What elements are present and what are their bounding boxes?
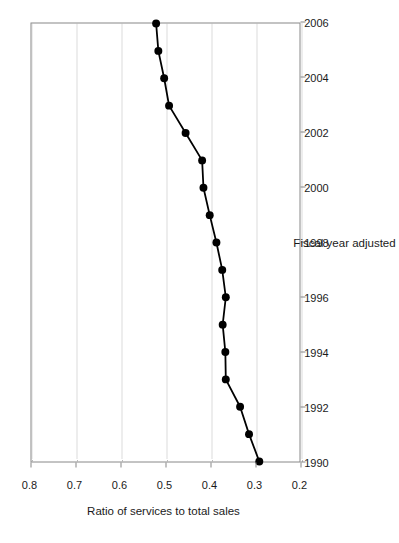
x-tick-label-2006: 2006	[300, 16, 332, 28]
data-point	[218, 265, 226, 273]
data-point	[199, 183, 207, 191]
y-tick-0.7	[75, 462, 76, 467]
y-tick-label-0.5: 0.5	[152, 478, 176, 490]
x-tick-label-1992: 1992	[300, 401, 332, 413]
data-point	[221, 293, 229, 301]
y-tick-0.5	[165, 462, 166, 467]
y-tick-label-0.4: 0.4	[197, 478, 221, 490]
data-point	[152, 19, 160, 27]
y-tick-label-0.2: 0.2	[287, 478, 311, 490]
y-tick-label-0.7: 0.7	[62, 478, 86, 490]
data-point	[154, 46, 162, 54]
series-markers	[152, 19, 263, 465]
x-tick-label-2000: 2000	[300, 181, 332, 193]
x-axis-title: Fiscal year adjusted	[289, 236, 399, 248]
data-point	[245, 430, 253, 438]
data-point	[218, 320, 226, 328]
data-point	[212, 238, 220, 246]
data-point	[198, 156, 206, 164]
x-tick-label-1990: 1990	[300, 456, 332, 468]
x-tick-label-2004: 2004	[300, 71, 332, 83]
data-series-line	[31, 23, 299, 461]
y-tick-0.6	[120, 462, 121, 467]
data-point	[160, 74, 168, 82]
data-point	[236, 402, 244, 410]
plot-area	[30, 22, 300, 462]
data-point	[205, 211, 213, 219]
y-tick-label-0.6: 0.6	[107, 478, 131, 490]
x-tick-label-1996: 1996	[300, 291, 332, 303]
series-polyline	[156, 23, 259, 461]
y-tick-0.2	[300, 462, 301, 467]
data-point	[221, 375, 229, 383]
y-tick-0.3	[255, 462, 256, 467]
y-tick-0.4	[210, 462, 211, 467]
y-tick-label-0.3: 0.3	[242, 478, 266, 490]
data-point	[221, 348, 229, 356]
y-tick-label-0.8: 0.8	[17, 478, 41, 490]
data-point	[181, 129, 189, 137]
x-tick-label-2002: 2002	[300, 126, 332, 138]
y-axis-title: Ratio of services to total sales	[83, 504, 243, 516]
y-tick-0.8	[30, 462, 31, 467]
x-tick-label-1994: 1994	[300, 346, 332, 358]
data-point	[165, 101, 173, 109]
